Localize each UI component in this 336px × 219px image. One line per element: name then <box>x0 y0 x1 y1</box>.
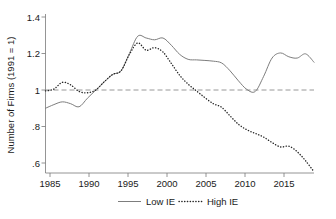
x-axis-ticks <box>50 173 284 177</box>
y-axis-title-group: Number of Firms (1991 = 1) <box>5 37 16 154</box>
legend-label-low-ie: Low IE <box>146 196 175 207</box>
legend-label-high-ie: High IE <box>207 196 238 207</box>
x-tick-label-1995: 1995 <box>117 178 138 189</box>
y-tick-label-0.6: .6 <box>32 158 40 169</box>
x-tick-label-2005: 2005 <box>195 178 216 189</box>
series-line-low-ie <box>46 35 315 108</box>
y-tick-label-1.4: 1.4 <box>27 12 40 23</box>
y-tick-label-1: 1 <box>35 85 40 96</box>
x-tick-labels: 1985 1990 1995 2000 2005 2010 2015 <box>39 178 294 189</box>
x-tick-label-2000: 2000 <box>156 178 177 189</box>
legend: Low IE High IE <box>118 196 238 207</box>
x-tick-label-1985: 1985 <box>39 178 60 189</box>
y-tick-label-1.2: 1.2 <box>27 48 40 59</box>
x-tick-label-2015: 2015 <box>273 178 294 189</box>
line-chart: Number of Firms (1991 = 1) 1.4 1.2 1 .8 … <box>0 0 336 219</box>
y-axis-title: Number of Firms (1991 = 1) <box>5 37 16 154</box>
series-line-high-ie <box>46 43 315 172</box>
y-tick-label-0.8: .8 <box>32 121 40 132</box>
y-tick-labels: 1.4 1.2 1 .8 .6 <box>27 12 40 169</box>
y-axis-ticks <box>42 17 46 163</box>
chart-container: Number of Firms (1991 = 1) 1.4 1.2 1 .8 … <box>0 0 336 219</box>
x-tick-label-2010: 2010 <box>234 178 255 189</box>
x-tick-label-1990: 1990 <box>78 178 99 189</box>
